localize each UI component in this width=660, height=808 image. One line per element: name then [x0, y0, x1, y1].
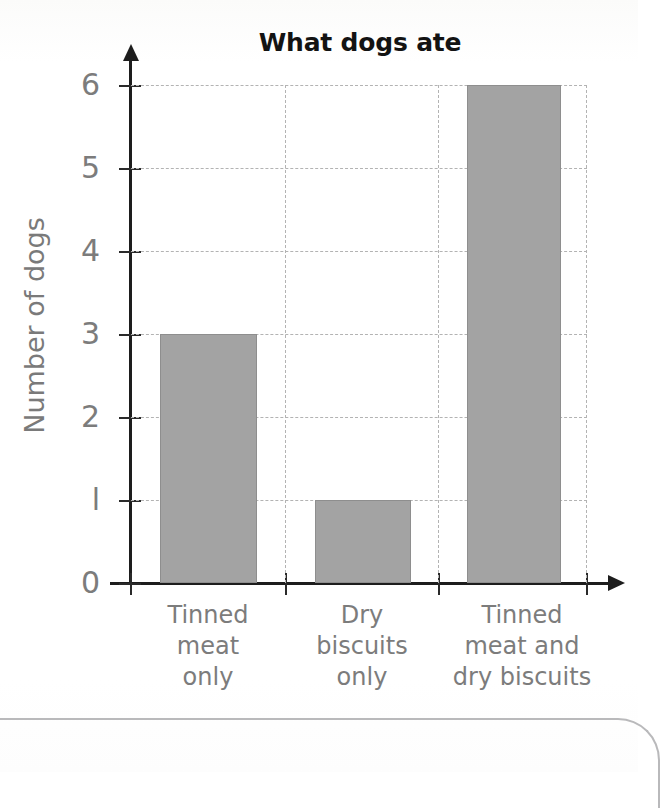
x-category-label-3-line-3: dry biscuits [434, 662, 610, 693]
x-category-label-3-line-1: Tinned [434, 600, 610, 631]
x-category-label-1-line-3: only [131, 662, 285, 693]
x-category-label-3-line-2: meat and [434, 631, 610, 662]
y-tick-label-2: 2 [60, 402, 100, 432]
x-category-label-1-line-2: meat [131, 631, 285, 662]
y-tick-label-1: l [60, 485, 100, 515]
x-category-label-1-line-1: Tinned [131, 600, 285, 631]
x-axis-arrow-icon [608, 575, 625, 591]
gridline-x-2 [438, 85, 439, 583]
bar-tinned-meat-and-dry-biscuits[interactable] [467, 85, 561, 583]
bar-dry-biscuits-only[interactable] [315, 500, 411, 583]
y-axis-arrow-icon [123, 44, 139, 61]
page-edge-border [0, 718, 660, 808]
y-tick-label-0: 0 [60, 568, 100, 598]
y-tick-label-6: 6 [60, 70, 100, 100]
bar-tinned-meat-only[interactable] [160, 334, 257, 583]
x-category-label-2-line-3: only [286, 662, 438, 693]
x-category-label-3: Tinned meat and dry biscuits [434, 600, 610, 693]
x-category-label-2-line-1: Dry [286, 600, 438, 631]
gridline-x-1 [285, 85, 286, 583]
bar-chart: What dogs ate Number of dogs 0 l 2 3 4 5… [0, 0, 638, 716]
gridline-x-right [586, 85, 587, 583]
x-category-label-2-line-2: biscuits [286, 631, 438, 662]
y-tick-label-4: 4 [60, 236, 100, 266]
plot-area [131, 85, 587, 583]
x-category-label-1: Tinned meat only [131, 600, 285, 693]
x-category-label-2: Dry biscuits only [286, 600, 438, 693]
chart-title: What dogs ate [190, 28, 530, 57]
y-axis-title: Number of dogs [19, 196, 50, 456]
y-tick-label-5: 5 [60, 153, 100, 183]
y-tick-label-3: 3 [60, 319, 100, 349]
